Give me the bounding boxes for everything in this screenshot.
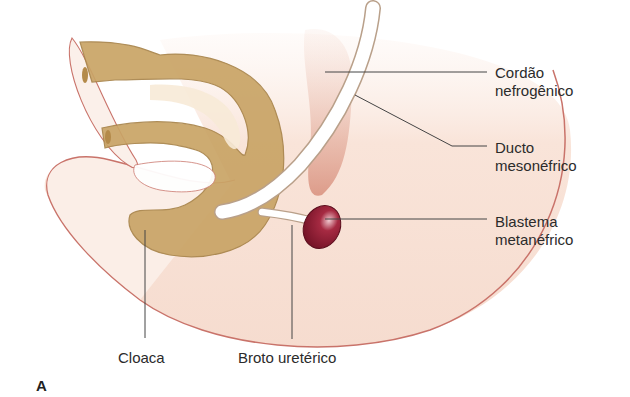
label-mesonephric-duct: Ducto mesonéfrico bbox=[495, 139, 577, 175]
label-cloaca: Cloaca bbox=[118, 349, 165, 367]
label-mesonephric-duct-line1: Ducto bbox=[495, 139, 577, 157]
label-nephrogenic-cord: Cordão nefrogênico bbox=[495, 64, 573, 100]
panel-letter: A bbox=[36, 377, 47, 394]
label-mesonephric-duct-line2: mesonéfrico bbox=[495, 157, 577, 175]
label-metanephric-blastema: Blastema metanéfrico bbox=[495, 213, 573, 249]
embryo-kidney-development-illustration bbox=[0, 0, 630, 397]
label-nephrogenic-cord-line1: Cordão bbox=[495, 64, 573, 82]
label-metanephric-blastema-line1: Blastema bbox=[495, 213, 573, 231]
label-ureteric-bud: Broto uretérico bbox=[238, 349, 336, 367]
label-nephrogenic-cord-line2: nefrogênico bbox=[495, 82, 573, 100]
label-metanephric-blastema-line2: metanéfrico bbox=[495, 231, 573, 249]
